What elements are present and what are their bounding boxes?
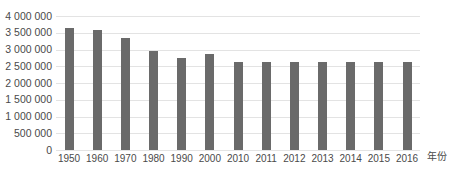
bar-1960 (93, 30, 102, 150)
bar-2000 (205, 54, 214, 150)
y-axis-tick-label: 2 500 000 (0, 61, 52, 72)
bar-chart: 4 000 0003 500 0003 000 0002 500 0002 00… (0, 0, 459, 179)
bar-1980 (149, 51, 158, 150)
bar-2011 (262, 62, 271, 150)
bar-1970 (121, 38, 130, 150)
bar-2015 (374, 62, 383, 150)
x-axis-tick-label: 2016 (391, 153, 423, 165)
bar-2010 (234, 62, 243, 150)
bar-2014 (346, 62, 355, 150)
bar-1950 (65, 28, 74, 150)
gridline (56, 150, 420, 151)
bar-2013 (318, 62, 327, 150)
bar-2012 (290, 62, 299, 150)
y-axis-tick-label: 2 000 000 (0, 78, 52, 89)
x-axis-labels: 1950196019701980199020002010201120122013… (0, 153, 459, 167)
y-axis-tick-label: 3 000 000 (0, 44, 52, 55)
gridline (56, 33, 420, 34)
x-axis-title: 年份 (427, 151, 447, 163)
bar-1990 (177, 58, 186, 150)
gridline (56, 50, 420, 51)
y-axis-tick-label: 1 500 000 (0, 94, 52, 105)
plot-area (56, 16, 420, 150)
y-axis-tick-label: 4 000 000 (0, 11, 52, 22)
y-axis-tick-label: 500 000 (0, 128, 52, 139)
bar-2016 (403, 62, 412, 150)
gridline (56, 16, 420, 17)
y-axis-tick-label: 3 500 000 (0, 27, 52, 38)
y-axis-tick-label: 1 000 000 (0, 111, 52, 122)
